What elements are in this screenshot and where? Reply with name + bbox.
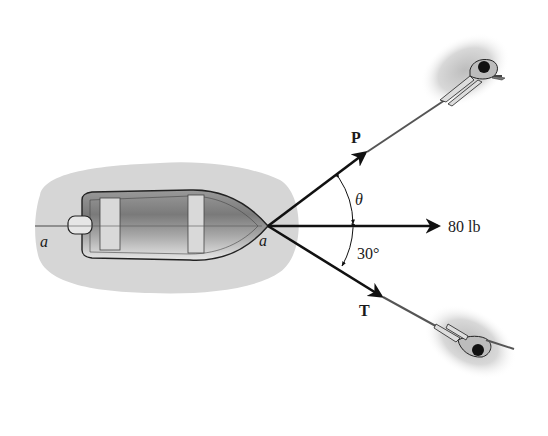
rope-P — [367, 100, 445, 152]
force-P-label: P — [351, 129, 361, 146]
resultant-label: 80 lb — [448, 218, 480, 235]
point-label-a-left: a — [40, 233, 48, 250]
force-T-label: T — [359, 302, 370, 319]
angle-30-label: 30° — [357, 245, 379, 262]
angle-theta-arc — [339, 178, 353, 224]
boat-force-diagram: a a P T 80 lb θ 30° — [0, 0, 548, 436]
point-label-a-right: a — [259, 232, 267, 249]
boat-motor — [68, 216, 92, 234]
angle-theta-label: θ — [355, 191, 363, 208]
angle-30-arc — [342, 228, 353, 266]
boat-seat-rear — [100, 198, 120, 250]
person-top-shadow — [407, 18, 522, 121]
boat-seat-front — [188, 195, 204, 253]
